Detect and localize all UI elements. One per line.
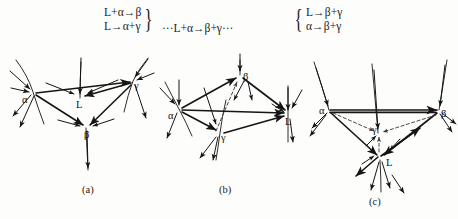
diagram-c-label-L: L <box>386 157 392 168</box>
diagram-a-label-L: L <box>76 99 82 110</box>
diagram-c-group <box>310 60 456 193</box>
figure-root: L+α→β L→α+γ } ···L+α→β+γ··· { L→β+γ α→β+… <box>0 0 458 219</box>
diagram-c-boundaries <box>314 60 447 192</box>
diagram-b-dashed-arrows <box>216 82 237 131</box>
diagram-c-label-gamma: γ <box>372 124 377 135</box>
diagram-a-label-alpha: α <box>22 94 28 105</box>
caption-a: (a) <box>82 184 94 195</box>
diagram-b-group <box>160 54 302 160</box>
diagram-b-label-alpha: α <box>168 110 174 121</box>
diagram-c-branch-arrows <box>362 136 400 164</box>
diagram-a-label-gamma: γ <box>134 80 139 91</box>
diagram-a-label-beta: β <box>84 129 89 140</box>
diagram-c-transfer-arrows <box>331 113 437 176</box>
caption-b: (b) <box>219 184 231 195</box>
diagram-c-outflow-arrows <box>310 113 456 193</box>
diagram-c-feed-arrows <box>316 65 445 129</box>
diagram-b-branch-arrows <box>204 81 284 124</box>
caption-c: (c) <box>369 196 381 207</box>
diagram-c-label-beta: β <box>441 108 446 119</box>
diagram-b-transfer-arrows <box>182 78 285 133</box>
diagram-c-dashed-arrows <box>333 113 436 152</box>
diagram-b-feed-arrows <box>160 54 302 110</box>
diagram-a-boundaries <box>16 58 148 170</box>
diagram-b-outflow-arrows <box>167 113 293 160</box>
diagram-c-label-alpha: α <box>319 105 325 116</box>
diagram-b-label-beta: β <box>243 71 248 82</box>
diagram-b-label-L: L <box>285 116 291 127</box>
diagram-a-group <box>10 58 154 170</box>
diagram-c-alpha-beta-line <box>330 110 437 112</box>
diagram-b-label-gamma: γ <box>221 132 226 143</box>
diagram-a-transfer-arrows <box>36 82 131 125</box>
diagram-a-outflow-arrows <box>13 85 146 168</box>
